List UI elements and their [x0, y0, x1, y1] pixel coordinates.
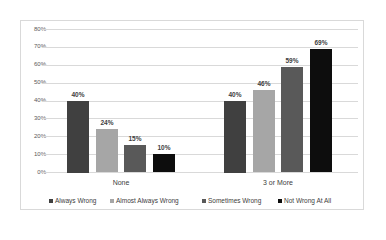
bar — [96, 129, 118, 172]
data-label: 15% — [120, 135, 150, 143]
data-label: 24% — [92, 119, 122, 127]
legend-label: Almost Always Wrong — [116, 196, 179, 205]
legend-item: Almost Always Wrong — [110, 196, 179, 205]
data-label: 40% — [63, 91, 93, 99]
bar — [153, 154, 175, 172]
data-label: 46% — [249, 80, 279, 88]
legend-item: Sometimes Wrong — [202, 196, 261, 205]
legend-label: Sometimes Wrong — [208, 196, 261, 205]
gridline — [42, 172, 358, 173]
data-label: 40% — [220, 91, 250, 99]
legend-swatch-icon — [278, 199, 282, 203]
data-label: 59% — [277, 57, 307, 65]
gridline — [42, 29, 358, 30]
bar — [253, 90, 275, 172]
bar — [281, 67, 303, 172]
category-label: None — [81, 178, 161, 187]
legend: Always WrongAlmost Always WrongSometimes… — [0, 196, 386, 206]
gridline — [42, 47, 358, 48]
bar — [224, 101, 246, 173]
bar — [124, 145, 146, 172]
legend-item: Not Wrong At All — [278, 196, 331, 205]
legend-swatch-icon — [110, 199, 114, 203]
category-label: 3 or More — [238, 178, 318, 187]
legend-label: Not Wrong At All — [284, 196, 331, 205]
legend-item: Always Wrong — [49, 196, 96, 205]
data-label: 10% — [149, 144, 179, 152]
legend-swatch-icon — [202, 199, 206, 203]
bar — [67, 101, 89, 173]
bar — [310, 49, 332, 172]
legend-swatch-icon — [49, 199, 53, 203]
legend-label: Always Wrong — [55, 196, 96, 205]
data-label: 69% — [306, 39, 336, 47]
